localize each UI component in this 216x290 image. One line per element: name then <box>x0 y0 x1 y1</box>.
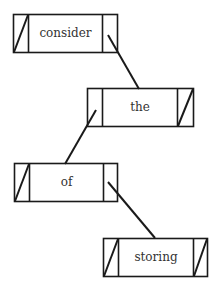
list-node: consider <box>14 14 118 53</box>
linked-list-diagram: considertheofstoring <box>0 0 216 290</box>
list-node: the <box>88 88 194 127</box>
list-node: storing <box>104 238 208 277</box>
link-line <box>108 182 155 238</box>
list-node: of <box>15 163 118 202</box>
null-pointer-slash-icon <box>104 239 118 276</box>
node-label: consider <box>39 26 91 40</box>
node-label: of <box>61 175 74 189</box>
null-pointer-slash-icon <box>14 15 28 52</box>
link-line <box>65 110 96 164</box>
node-label: the <box>130 100 150 114</box>
node-label: storing <box>134 250 178 264</box>
null-pointer-slash-icon <box>194 239 207 276</box>
link-line <box>108 35 139 89</box>
null-pointer-slash-icon <box>15 164 29 201</box>
null-pointer-slash-icon <box>178 89 193 126</box>
